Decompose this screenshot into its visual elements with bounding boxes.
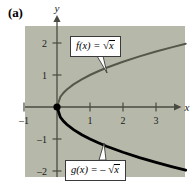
y-axis	[53, 15, 60, 177]
x-tick-label-3: 3	[154, 115, 159, 126]
callout-f-radicand: x	[109, 40, 115, 52]
callout-g-sign: –	[100, 164, 105, 175]
y-tick-label-neg1: –1	[36, 134, 47, 145]
callout-g-radicand: x	[114, 164, 120, 176]
y-tick-label-neg2: –2	[36, 166, 47, 177]
x-tick-label-2: 2	[121, 115, 126, 126]
figure-panel: (a) –1 1 2 3	[0, 0, 196, 188]
x-axis	[25, 103, 182, 110]
callout-f-arg: (x)	[79, 40, 91, 51]
callout-label-g: g(x) = – √x	[65, 160, 126, 181]
callout-f-equals: =	[93, 40, 100, 51]
origin-point-marker	[53, 103, 60, 110]
x-tick-label-1: 1	[88, 115, 93, 126]
x-axis-label: x	[184, 101, 190, 113]
callout-g-equals: =	[91, 164, 98, 175]
callout-g-arg: (x)	[76, 164, 88, 175]
callout-label-f: f(x) = √x	[70, 36, 121, 57]
y-axis-label: y	[54, 2, 60, 14]
y-tick-label-1: 1	[42, 70, 47, 81]
x-tick-label-neg1: –1	[18, 115, 29, 126]
y-tick-label-2: 2	[42, 38, 47, 49]
